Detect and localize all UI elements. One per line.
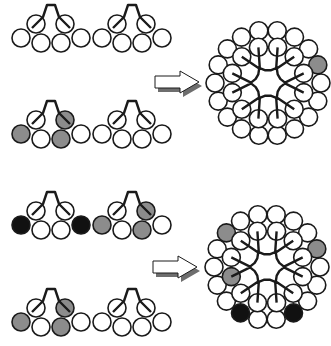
- cluster-outer-circle: [232, 212, 250, 230]
- cluster-outer-circle: [268, 22, 286, 40]
- unit-circle-bottom: [12, 216, 30, 234]
- cluster-outer-circle: [233, 28, 251, 46]
- unit-circle-bottom: [133, 34, 151, 52]
- unit-circle-bottom: [72, 313, 90, 331]
- unit-circle-bottom: [52, 221, 70, 239]
- cluster-linker-star: [231, 231, 302, 302]
- unit-circle-bottom: [133, 318, 151, 336]
- assembled-cluster: [205, 206, 329, 328]
- unit-circle-bottom: [113, 221, 131, 239]
- unit-circle-bottom: [93, 29, 111, 47]
- cluster-outer-circle: [206, 74, 224, 92]
- molecule-unit: [93, 289, 171, 336]
- arrow-icon: [155, 71, 202, 97]
- cluster-outer-circle: [286, 120, 304, 138]
- cluster-linker-star: [232, 47, 303, 118]
- cluster-outer-circle: [249, 310, 267, 328]
- unit-circle-bottom: [12, 313, 30, 331]
- cluster-outer-circle: [268, 126, 286, 144]
- unit-circle-bottom: [52, 34, 70, 52]
- unit-circle-bottom: [12, 29, 30, 47]
- unit-circle-bottom: [133, 130, 151, 148]
- molecule-unit: [12, 101, 90, 148]
- molecule-unit: [93, 101, 171, 148]
- unit-circle-bottom: [153, 29, 171, 47]
- unit-circle-bottom: [113, 318, 131, 336]
- cluster-outer-circle: [267, 206, 285, 224]
- arrows-group: [153, 71, 202, 282]
- unit-circle-bottom: [52, 318, 70, 336]
- unit-circle-bottom: [12, 125, 30, 143]
- unit-circle-bottom: [32, 130, 50, 148]
- arrow-icon: [153, 256, 200, 282]
- cluster-outer-circle: [250, 126, 268, 144]
- unit-circle-bottom: [113, 34, 131, 52]
- molecule-unit: [12, 192, 90, 239]
- unit-circle-bottom: [93, 313, 111, 331]
- cluster-outer-circle: [267, 310, 285, 328]
- unit-circle-bottom: [52, 130, 70, 148]
- cluster-outer-circle: [249, 206, 267, 224]
- molecule-unit: [12, 5, 90, 52]
- unit-circle-bottom: [153, 125, 171, 143]
- cluster-outer-circle: [312, 74, 330, 92]
- unit-circle-bottom: [93, 216, 111, 234]
- clusters-group: [205, 22, 330, 328]
- molecule-unit: [12, 289, 90, 336]
- unit-circle-bottom: [153, 216, 171, 234]
- cluster-outer-circle: [250, 22, 268, 40]
- unit-circle-bottom: [133, 221, 151, 239]
- molecule-unit: [93, 192, 171, 239]
- unit-circle-bottom: [32, 34, 50, 52]
- unit-circle-bottom: [93, 125, 111, 143]
- unit-circle-bottom: [113, 130, 131, 148]
- cluster-outer-circle: [205, 258, 223, 276]
- unit-circle-bottom: [72, 216, 90, 234]
- cluster-outer-circle: [311, 258, 329, 276]
- unit-circle-bottom: [32, 318, 50, 336]
- small-units-group: [12, 5, 171, 336]
- cluster-outer-circle: [285, 304, 303, 322]
- molecule-unit: [93, 5, 171, 52]
- unit-circle-bottom: [32, 221, 50, 239]
- unit-circle-bottom: [72, 29, 90, 47]
- assembled-cluster: [206, 22, 330, 144]
- self-assembly-diagram: [0, 0, 331, 346]
- unit-circle-bottom: [153, 313, 171, 331]
- unit-circle-bottom: [72, 125, 90, 143]
- diagram-canvas: [0, 0, 331, 346]
